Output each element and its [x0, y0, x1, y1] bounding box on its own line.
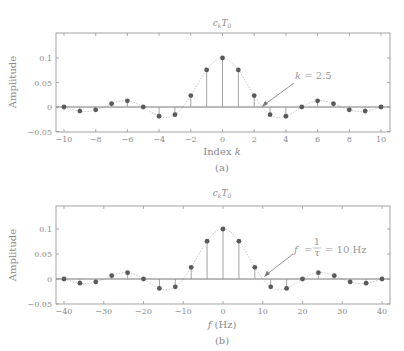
y-tick-label: 0.05	[34, 250, 52, 259]
x-tick-label: 10	[376, 135, 386, 144]
plot-a: ckT0 −10−8−6−4−20246810−0.0500.050.1 Amp…	[7, 18, 390, 173]
stem-marker	[109, 273, 114, 278]
stem-marker	[284, 114, 289, 119]
stem-marker	[315, 98, 320, 103]
stem-marker	[252, 265, 257, 270]
stem-marker	[157, 114, 162, 119]
stem-marker	[62, 277, 67, 282]
y-tick-label: 0.1	[39, 225, 52, 234]
y-tick-label: 0	[47, 103, 52, 112]
stem-marker	[173, 284, 178, 289]
plot-b-annotation: f = 1 τ = 10 Hz	[264, 236, 366, 277]
stem-marker	[299, 105, 304, 110]
x-tick-label: 10	[258, 307, 268, 316]
x-tick-label: 0	[220, 135, 225, 144]
x-tick-label: −30	[95, 307, 112, 316]
stem-marker	[284, 286, 289, 291]
stem-marker	[204, 68, 209, 73]
x-tick-label: 2	[252, 135, 257, 144]
plot-b-caption: (b)	[215, 335, 229, 346]
stem-marker	[62, 105, 67, 110]
stem-marker	[236, 68, 241, 73]
stem-marker	[300, 277, 305, 282]
stem-marker	[220, 56, 225, 61]
stem-marker	[364, 281, 369, 286]
plot-b-annotation-eq: =	[304, 244, 312, 255]
plot-b: ckT0 −40−30−20−10010203040−0.0500.050.1 …	[7, 188, 390, 346]
x-tick-label: −10	[56, 135, 73, 144]
stem-marker	[189, 265, 194, 270]
stem-marker	[221, 227, 226, 232]
plot-a-title: ckT0	[213, 18, 232, 29]
annotation-arrow-line	[266, 254, 293, 275]
stem-marker	[252, 93, 257, 98]
plot-b-xlabel: f (Hz)	[207, 319, 237, 330]
y-tick-label: −0.05	[27, 300, 52, 309]
stem-marker	[173, 112, 178, 117]
stem-marker	[347, 107, 352, 112]
arrow-head-icon	[262, 101, 268, 107]
stem-marker	[141, 277, 146, 282]
x-tick-label: −10	[175, 307, 192, 316]
plot-a-stems	[62, 56, 384, 119]
plot-a-axes-frame	[56, 33, 390, 132]
stem-marker	[125, 270, 130, 275]
stem-marker	[331, 101, 336, 106]
x-tick-label: −4	[153, 135, 165, 144]
plot-b-annotation-numerator: 1	[314, 236, 320, 247]
y-tick-label: 0	[47, 275, 52, 284]
stem-marker	[93, 107, 98, 112]
plot-a-ylabel: Amplitude	[7, 56, 18, 109]
plot-a-annotation-text: k = 2.5	[295, 70, 332, 81]
x-tick-label: 8	[347, 135, 352, 144]
x-tick-label: 0	[220, 307, 225, 316]
plot-a-xlabel: Index k	[203, 146, 241, 157]
plot-a-ticks: −10−8−6−4−20246810−0.0500.050.1	[27, 33, 390, 144]
stem-marker	[268, 112, 273, 117]
stem-marker	[379, 105, 384, 110]
x-tick-label: 30	[337, 307, 347, 316]
arrow-head-icon	[264, 271, 270, 277]
plot-b-annotation-denominator: τ	[314, 247, 320, 258]
x-tick-label: 20	[297, 307, 307, 316]
stem-marker	[268, 284, 273, 289]
stem-marker	[77, 109, 82, 114]
x-tick-label: −8	[90, 135, 102, 144]
y-tick-label: −0.05	[27, 128, 52, 137]
stem-marker	[109, 101, 114, 106]
stem-marker	[205, 239, 210, 244]
stem-marker	[141, 105, 146, 110]
plot-a-caption: (a)	[215, 162, 229, 173]
stem-marker	[125, 98, 130, 103]
stem-marker	[157, 286, 162, 291]
annotation-arrow-line	[264, 83, 294, 105]
x-tick-label: −6	[122, 135, 134, 144]
plot-b-ticks: −40−30−20−10010203040−0.0500.050.1	[27, 206, 390, 316]
stem-marker	[363, 109, 368, 114]
chart-figure: ckT0 −10−8−6−4−20246810−0.0500.050.1 Amp…	[0, 0, 404, 351]
stem-marker	[93, 280, 98, 285]
x-tick-label: 40	[377, 307, 387, 316]
x-tick-label: −2	[185, 135, 197, 144]
stem-marker	[348, 280, 353, 285]
plot-b-annotation-rest: = 10 Hz	[325, 244, 366, 255]
stem-marker	[332, 273, 337, 278]
x-tick-label: 6	[315, 135, 320, 144]
plot-b-ylabel: Amplitude	[7, 229, 18, 282]
plot-b-title: ckT0	[213, 188, 232, 199]
x-tick-label: −20	[135, 307, 152, 316]
stem-marker	[78, 281, 83, 286]
plot-b-stems	[62, 227, 385, 291]
x-tick-label: −40	[56, 307, 73, 316]
stem-marker	[188, 93, 193, 98]
y-tick-label: 0.05	[34, 79, 52, 88]
plot-a-annotation: k = 2.5	[262, 70, 332, 107]
stem-marker	[237, 239, 242, 244]
x-tick-label: 4	[283, 135, 288, 144]
stem-marker	[316, 270, 321, 275]
stem-marker	[380, 277, 385, 282]
plot-b-annotation-var: f	[293, 244, 300, 255]
y-tick-label: 0.1	[39, 54, 52, 63]
